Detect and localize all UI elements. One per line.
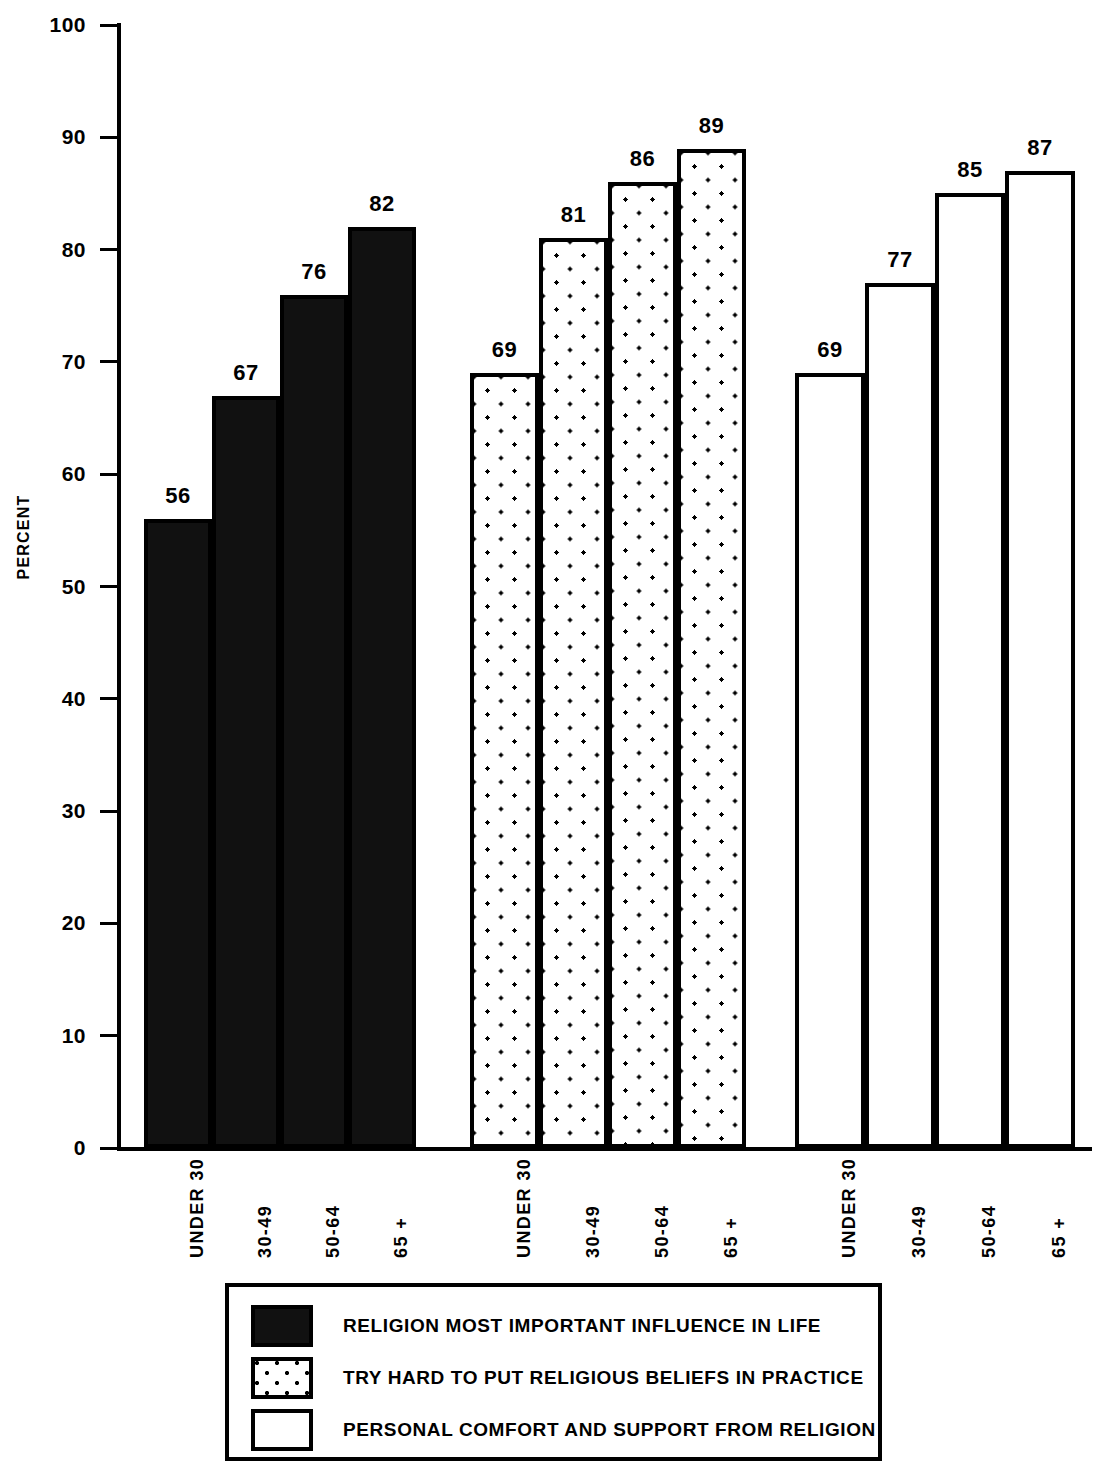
legend-item: RELIGION MOST IMPORTANT INFLUENCE IN LIF… [251, 1303, 821, 1349]
x-axis-category-label: UNDER 30 [514, 1158, 535, 1258]
x-axis-category-label: 65 + [1049, 1217, 1070, 1258]
bar [348, 227, 416, 1148]
legend: RELIGION MOST IMPORTANT INFLUENCE IN LIF… [225, 1283, 882, 1461]
legend-label: PERSONAL COMFORT AND SUPPORT FROM RELIGI… [343, 1419, 876, 1441]
legend-swatch-dots [251, 1357, 313, 1399]
bar [144, 519, 212, 1148]
bars-layer: 566776826981868969778587 [0, 0, 1098, 1149]
bar [795, 373, 865, 1148]
bar-value-label: 86 [608, 148, 677, 170]
bar-value-label: 69 [795, 339, 865, 361]
x-axis-category-label: 50-64 [979, 1205, 1000, 1258]
bar [1005, 171, 1075, 1148]
bar-value-label: 87 [1005, 137, 1075, 159]
x-axis-category-label: 30-49 [909, 1205, 930, 1258]
x-axis-category-label: 65 + [721, 1217, 742, 1258]
bar-value-label: 89 [677, 115, 746, 137]
x-axis-category-label: 50-64 [652, 1205, 673, 1258]
x-axis-category-label: UNDER 30 [839, 1158, 860, 1258]
legend-item: PERSONAL COMFORT AND SUPPORT FROM RELIGI… [251, 1407, 876, 1453]
x-axis-category-label: 30-49 [583, 1205, 604, 1258]
bar-value-label: 56 [144, 485, 212, 507]
legend-item: TRY HARD TO PUT RELIGIOUS BELIEFS IN PRA… [251, 1355, 864, 1401]
x-axis-category-label: 65 + [391, 1217, 412, 1258]
bar-value-label: 69 [470, 339, 539, 361]
bar [212, 396, 280, 1148]
bar [935, 193, 1005, 1148]
bar [865, 283, 935, 1148]
legend-swatch-crosshatch [251, 1305, 313, 1347]
bar [608, 182, 677, 1148]
legend-label: TRY HARD TO PUT RELIGIOUS BELIEFS IN PRA… [343, 1367, 864, 1389]
legend-label: RELIGION MOST IMPORTANT INFLUENCE IN LIF… [343, 1315, 821, 1337]
bar [539, 238, 608, 1148]
legend-swatch-plain [251, 1409, 313, 1451]
bar [470, 373, 539, 1148]
bar-value-label: 77 [865, 249, 935, 271]
bar-value-label: 76 [280, 261, 348, 283]
x-axis-category-label: 50-64 [323, 1205, 344, 1258]
bar-value-label: 82 [348, 193, 416, 215]
bar-value-label: 67 [212, 362, 280, 384]
bar-chart: PERCENT 0102030405060708090100 566776826… [0, 0, 1098, 1469]
x-axis-category-label: 30-49 [255, 1205, 276, 1258]
x-axis-category-label: UNDER 30 [187, 1158, 208, 1258]
bar-value-label: 81 [539, 204, 608, 226]
bar-value-label: 85 [935, 159, 1005, 181]
bar [677, 149, 746, 1148]
bar [280, 295, 348, 1148]
